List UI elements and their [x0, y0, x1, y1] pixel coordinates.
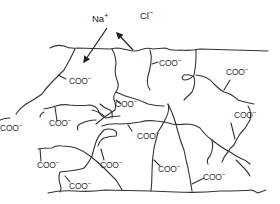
gel-surface-top — [50, 45, 268, 51]
carboxylate-label: COO− — [158, 165, 180, 174]
polymer-chain — [147, 50, 151, 90]
carboxylate-label: COO− — [49, 119, 71, 128]
carboxylate-label: COO− — [234, 111, 256, 120]
polymer-chain — [102, 121, 250, 164]
carboxylate-label: COO− — [69, 182, 91, 191]
side-group-line — [231, 123, 235, 139]
carboxylate-label: COO− — [37, 161, 59, 170]
polymer-chain — [168, 104, 192, 191]
chloride-ion-label: Cl− — [140, 11, 153, 21]
carboxylate-label: COO− — [0, 124, 22, 133]
carboxylate-label: COO− — [115, 100, 137, 109]
polymer-network-diagram — [0, 0, 280, 204]
cl-efflux-arrow — [117, 33, 133, 50]
side-group-line — [58, 75, 66, 79]
side-group-line — [101, 149, 104, 160]
na-influx-arrow — [84, 28, 107, 62]
sodium-ion-label: Na+ — [92, 14, 108, 24]
polymer-chain — [207, 140, 212, 164]
polymer-chain — [151, 104, 169, 191]
side-group-line — [224, 80, 230, 90]
carboxylate-label: COO− — [203, 173, 225, 182]
side-group-line — [152, 62, 158, 64]
carboxylate-label: COO− — [226, 68, 248, 77]
carboxylate-label: COO− — [159, 59, 181, 68]
carboxylate-label: COO− — [100, 161, 122, 170]
carboxylate-label: COO− — [137, 132, 159, 141]
polymer-chain — [196, 75, 254, 104]
side-group-line — [128, 125, 132, 131]
carboxylate-label: COO− — [69, 77, 91, 86]
polymer-chain — [182, 50, 196, 100]
